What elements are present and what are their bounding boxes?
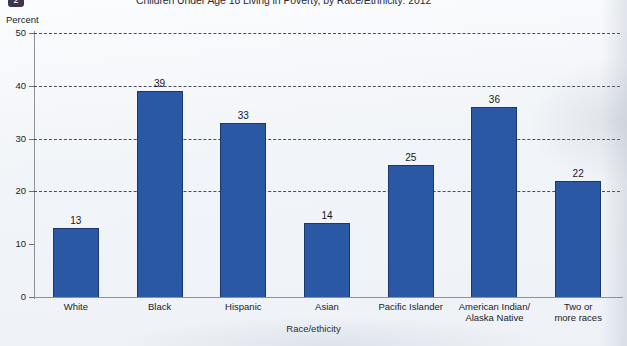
- y-axis-tick-label: 40: [2, 81, 26, 91]
- chart-title: Children Under Age 18 Living in Poverty,…: [136, 0, 431, 7]
- x-axis-title: Race/ethicity: [0, 323, 627, 334]
- figure-title-row: 2 Children Under Age 18 Living in Povert…: [0, 0, 627, 9]
- bar: [388, 165, 434, 297]
- y-axis-tick: [29, 244, 34, 245]
- gridline: [34, 139, 620, 140]
- y-axis-tick-label: 50: [2, 28, 26, 38]
- y-axis-tick: [29, 191, 34, 192]
- bar: [304, 223, 350, 297]
- bar-value-label: 22: [555, 168, 601, 179]
- bar: [555, 181, 601, 297]
- y-axis-tick-label: 30: [2, 134, 26, 144]
- figure-number-badge: 2: [8, 0, 24, 7]
- poverty-by-race-bar-chart: 2 Children Under Age 18 Living in Povert…: [0, 0, 627, 346]
- x-axis-line: [33, 297, 623, 298]
- bar-value-label: 39: [137, 78, 183, 89]
- y-axis-tick-label: 20: [2, 186, 26, 196]
- gridline: [34, 86, 620, 87]
- y-axis-tick: [29, 86, 34, 87]
- bar: [53, 228, 99, 297]
- gridline: [34, 33, 620, 34]
- y-axis-tick: [29, 33, 34, 34]
- bar-value-label: 25: [388, 152, 434, 163]
- y-axis-tick: [29, 297, 34, 298]
- bar: [471, 107, 517, 297]
- y-axis-title: Percent: [6, 14, 39, 25]
- bar: [137, 91, 183, 297]
- gridline: [34, 191, 620, 192]
- bar-value-label: 33: [220, 110, 266, 121]
- bar-value-label: 13: [53, 215, 99, 226]
- y-axis-tick-label: 10: [2, 239, 26, 249]
- y-axis-tick: [29, 139, 34, 140]
- x-axis-category-label-line: Two or: [523, 301, 627, 312]
- x-axis-category-label: Two ormore races: [523, 301, 627, 323]
- x-axis-category-label-line: more races: [523, 312, 627, 323]
- plot-area: 0102030405013393314253622: [34, 33, 620, 297]
- bar-value-label: 14: [304, 210, 350, 221]
- bar: [220, 123, 266, 297]
- bar-value-label: 36: [471, 94, 517, 105]
